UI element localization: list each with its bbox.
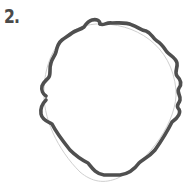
head-outline-drawing (0, 0, 191, 187)
guide-oval (44, 24, 176, 181)
head-hair-outline (41, 23, 181, 175)
tutorial-step-canvas: 2. (0, 0, 191, 187)
